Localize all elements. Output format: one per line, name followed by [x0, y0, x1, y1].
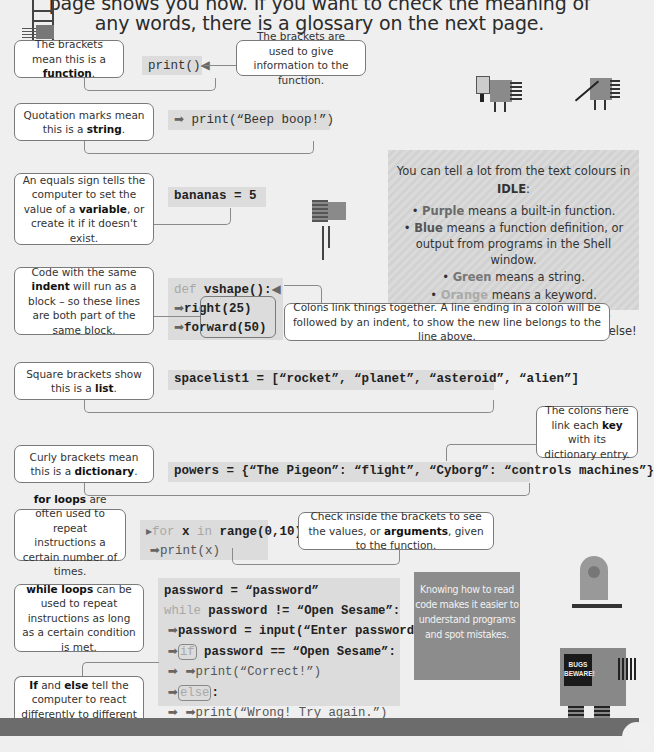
code-powers: powers = {“The Pigeon”: “flight”, “Cybor… — [168, 462, 530, 482]
code-spacelist: spacelist1 = [“rocket”, “planet”, “aster… — [168, 370, 494, 390]
connector-line — [154, 316, 200, 317]
jackhammer-robot-illustration — [468, 72, 528, 122]
jetpack-robot-illustration — [312, 196, 352, 266]
connector-line — [84, 400, 494, 413]
idle-item-green: • Green means a string. — [388, 268, 639, 286]
connector-line — [446, 444, 537, 461]
callout-function: The brackets mean this is a function. — [14, 40, 124, 78]
connector-line — [84, 483, 530, 496]
code-print-empty: print()◀ — [142, 56, 202, 75]
callout-arguments: Check inside the brackets to see the val… — [298, 512, 494, 550]
footer-bar — [0, 718, 639, 736]
connector-line — [84, 141, 314, 154]
idle-colours-panel: You can tell a lot from the text colours… — [388, 150, 639, 310]
else-keyword: else — [178, 685, 212, 701]
if-keyword: if — [178, 644, 197, 660]
callout-while-loops: while loops can be used to repeat instru… — [14, 584, 144, 652]
idle-item-blue: • Blue means a function definition, or o… — [388, 220, 639, 268]
callout-colons: Colons link things together. A line endi… — [284, 303, 610, 341]
robot-illustration: BUGS BEWARE! — [548, 548, 639, 720]
callout-list: Square brackets show this is a list. — [14, 362, 154, 400]
connector-line — [84, 78, 216, 91]
bugs-beware-badge: BUGS BEWARE! — [564, 654, 592, 686]
code-print-beep: ➡ print(“Beep boop!”) — [168, 110, 330, 130]
code-while-block: password = “password” while password != … — [158, 578, 400, 706]
callout-indent: Code with the same indent will run as a … — [14, 267, 154, 335]
callout-brackets-info: The brackets are used to give informatio… — [236, 40, 366, 76]
connector-line — [232, 548, 400, 565]
connector-line — [204, 65, 236, 66]
idle-intro: You can tell a lot from the text colours… — [388, 162, 639, 198]
pickaxe-robot-illustration — [572, 72, 632, 122]
idle-item-purple: • Purple means a built-in function. — [388, 202, 639, 220]
callout-dictionary: Curly brackets mean this is a dictionary… — [14, 445, 154, 483]
callout-for-loops: for loops are often used to repeat instr… — [14, 509, 126, 561]
connector-line — [154, 208, 231, 225]
code-bananas: bananas = 5 — [168, 187, 266, 207]
callout-string: Quotation marks mean this is a string. — [14, 103, 154, 141]
callout-variable: An equals sign tells the computer to set… — [14, 173, 154, 245]
indent-block-highlight — [200, 296, 276, 338]
robot-speech-note: Knowing how to read code makes it easier… — [414, 572, 520, 680]
callout-dict-colons: The colons here link each key with its d… — [536, 406, 638, 458]
page-number-badge — [622, 722, 652, 752]
